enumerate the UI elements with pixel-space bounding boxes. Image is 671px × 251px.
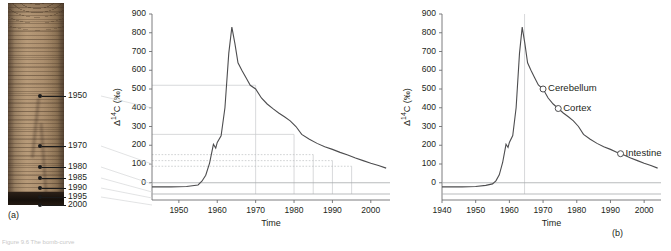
y-axis-tick-label: 800 [398, 27, 436, 37]
x-axis-tick-label: 1950 [161, 205, 197, 215]
panel-a-tree-core: 1950 1970 1980 1985 1990 1995 [0, 0, 118, 235]
chart-right: Δ14C (‰) Time (b) 0100200300400500600700… [398, 0, 671, 240]
y-axis-tick-label: 800 [108, 27, 146, 37]
y-axis-tick-label: 100 [398, 158, 436, 168]
y-axis-tick-label: 100 [108, 158, 146, 168]
ring-year-label: 1985 [68, 172, 87, 182]
x-axis-tick-label: 2000 [353, 205, 389, 215]
x-axis-tick-label: 1960 [199, 205, 235, 215]
data-point-label-cerebellum: Cerebellum [548, 82, 597, 93]
ring-year-label: 1980 [68, 161, 87, 171]
panel-b-label: (b) [612, 228, 623, 238]
y-axis-tick-label: 200 [398, 139, 436, 149]
y-axis-tick-label: 300 [398, 121, 436, 131]
y-axis-tick-label: 0 [398, 177, 436, 187]
y-axis-tick-label: 900 [398, 8, 436, 18]
y-axis-tick-label: 600 [398, 64, 436, 74]
ring-year-label: 2000 [68, 199, 87, 209]
x-axis-title: Time [152, 218, 390, 228]
y-axis-tick-label: 900 [108, 8, 146, 18]
tree-core-rings [8, 3, 64, 65]
chart-middle-canvas [108, 0, 398, 240]
x-axis-title: Time [442, 218, 661, 228]
x-axis-tick-label: 1990 [314, 205, 350, 215]
data-point-label-cortex: Cortex [563, 102, 591, 113]
x-axis-tick-label: 1980 [559, 205, 595, 215]
y-axis-tick-label: 700 [108, 46, 146, 56]
chart-middle: Δ14C (‰) Time 01002003004005006007008009… [108, 0, 398, 240]
data-point-label-intestine: Intestine [626, 147, 662, 158]
x-axis-tick-label: 1940 [424, 205, 460, 215]
y-axis-tick-label: 400 [108, 102, 146, 112]
x-axis-tick-label: 1980 [276, 205, 312, 215]
y-axis-tick-label: 700 [398, 46, 436, 56]
y-axis-tick-label: 400 [398, 102, 436, 112]
x-axis-tick-label: 1970 [238, 205, 274, 215]
y-axis-tick-label: 200 [108, 139, 146, 149]
y-axis-tick-label: 0 [108, 177, 146, 187]
ring-year-label: 1950 [68, 90, 87, 100]
x-axis-tick-label: 1960 [491, 205, 527, 215]
x-axis-tick-label: 2000 [626, 205, 662, 215]
y-axis-tick-label: 500 [398, 83, 436, 93]
tree-core-bark [8, 192, 64, 205]
panel-a-label: (a) [8, 210, 19, 220]
x-axis-tick-label: 1950 [458, 205, 494, 215]
x-axis-tick-label: 1990 [592, 205, 628, 215]
tree-core-photo [8, 3, 64, 205]
figure-caption: Figure 9.6 The bomb-curve [2, 239, 662, 245]
core-streak [40, 123, 48, 193]
ring-year-label: 1970 [68, 140, 87, 150]
chart-right-canvas [398, 0, 671, 240]
y-axis-tick-label: 600 [108, 64, 146, 74]
figure-bomb-curve: 1950 1970 1980 1985 1990 1995 [0, 0, 671, 251]
x-axis-tick-label: 1970 [525, 205, 561, 215]
y-axis-tick-label: 300 [108, 121, 146, 131]
y-axis-tick-label: 500 [108, 83, 146, 93]
core-streak [31, 98, 40, 158]
